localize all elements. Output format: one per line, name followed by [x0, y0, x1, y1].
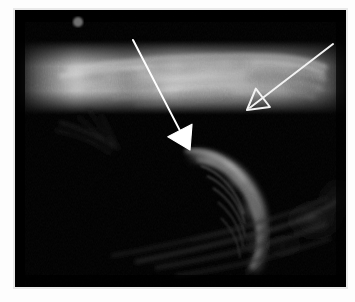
orientation-dot-marker: [73, 17, 83, 27]
ultrasound-scan-image: [15, 10, 346, 287]
ultrasound-echo-field: [15, 10, 346, 287]
global-speckle: [15, 10, 346, 287]
screenshot-viewport: [0, 0, 355, 302]
